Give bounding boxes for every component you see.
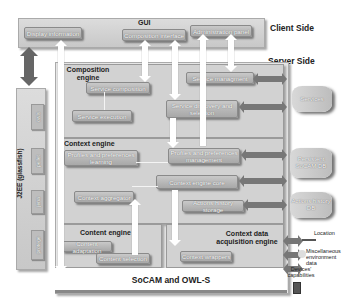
arrow-env-acquisition — [288, 252, 298, 258]
j2ee-module-protege: protege — [31, 230, 44, 260]
arrow-discovery-services — [244, 104, 282, 110]
gui-title: GUI — [138, 19, 150, 27]
service-management-box: Service managment — [186, 72, 254, 84]
arrow-core-socam — [244, 178, 282, 184]
persistent-socam-db: Persistent SoCAM DB — [290, 148, 332, 178]
j2ee-module-jena: jena — [31, 190, 44, 214]
arrow-location-acquisition — [288, 238, 298, 244]
j2ee-module-pellet: pellet — [31, 148, 44, 174]
arrow-admin-management — [228, 40, 234, 66]
arrow-head-down — [20, 77, 38, 86]
arrow-admin-context — [200, 40, 206, 146]
device-icon — [293, 282, 301, 294]
client-side-label: Client Side — [270, 23, 314, 33]
misc-environment-label: Miscellaneous environment data — [306, 248, 342, 266]
context-acquisition-title: Context data acquisition engine — [212, 230, 282, 246]
arrow-composition-interface — [142, 46, 148, 76]
arrow-management-services — [258, 76, 282, 82]
socam-owls-label: SoCAM and OWL-S — [55, 275, 287, 285]
arrow-content-aggregator — [132, 205, 138, 255]
soap-double-arrow — [24, 55, 34, 77]
actions-history-storage-box: Actions history storage — [182, 200, 244, 212]
profiles-management-box: Profiles and preferences management — [168, 148, 240, 164]
arrow-discovery-profiles — [170, 118, 176, 142]
device-capabilities-label: Devices' capabilities — [284, 266, 318, 278]
services-db: Services — [292, 86, 332, 112]
context-engine-title: Context engine — [64, 140, 115, 148]
connector-line — [104, 92, 105, 110]
j2ee-label: J2EE (glassfish) — [16, 149, 23, 199]
connector-line — [136, 162, 168, 163]
arrow-core-acquisition — [172, 190, 178, 240]
composition-engine-title: Composition engine — [66, 66, 110, 82]
arrow-head-up — [20, 47, 38, 56]
display-information-box: Display information — [24, 27, 82, 39]
context-wrappers-box: Context wrappers — [180, 251, 232, 262]
content-selection-box: Content selection — [96, 253, 150, 264]
service-composition-box: Service composition — [86, 82, 150, 94]
content-adaptation-box: Content adaptation — [62, 241, 112, 252]
context-engine-core-box: Context engine core — [156, 175, 238, 189]
service-execution-box: Service execution — [72, 110, 132, 122]
j2ee-module-owls: owls — [31, 104, 44, 130]
connector-line — [132, 186, 158, 187]
arrow-history-db — [248, 202, 282, 208]
arrow-display-info — [58, 46, 64, 266]
content-engine-title: Content engine — [80, 229, 131, 237]
arrow-composition-discovery — [172, 46, 178, 94]
actions-history-db: Actions history DB — [290, 192, 332, 218]
arrow-profiles-socam — [246, 152, 282, 158]
location-label: Location — [314, 230, 335, 236]
profiles-learning-box: Profiles and preferences learning — [64, 150, 138, 166]
environment-icon — [298, 250, 306, 258]
context-aggregator-box: Context aggregator — [74, 191, 134, 203]
